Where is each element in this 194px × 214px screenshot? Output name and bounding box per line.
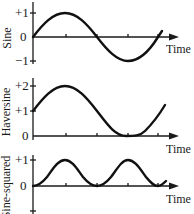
haversine-ytick-label-bottom: 0 (22, 128, 29, 143)
haversine-curve (33, 86, 165, 136)
haversine-y-title: Haversine (0, 88, 13, 137)
haversine-x-arrow-icon (169, 133, 179, 140)
sine-squared-curve (33, 160, 166, 186)
haversine-ytick-label-top: +2 (15, 78, 29, 93)
sine-panel: +1 0 −1 Sine Time (0, 2, 191, 68)
sine-x-arrow-icon (169, 34, 179, 41)
sine-squared-x-title: Time (166, 192, 191, 206)
sine-squared-ytick-label-top: +1 (15, 152, 29, 167)
sine-ytick-label-bottom: −1 (15, 53, 29, 68)
haversine-panel: +2 +1 0 Haversine Time (0, 78, 191, 156)
sine-squared-panel: +1 0 Sine-squared Time (0, 152, 191, 214)
sine-squared-ytick-label-mid: 0 (20, 178, 27, 193)
haversine-x-title: Time (166, 142, 191, 156)
sine-ytick-label-mid: 0 (20, 29, 27, 44)
sine-ytick-label-top: +1 (15, 5, 29, 20)
sine-y-title: Sine (0, 27, 14, 48)
sine-squared-x-arrow-icon (169, 183, 179, 190)
sine-squared-y-title: Sine-squared (0, 156, 13, 214)
waveform-figure: +1 0 −1 Sine Time +2 +1 0 Haversine Time (0, 0, 194, 214)
sine-x-title: Time (166, 42, 191, 56)
haversine-ytick-label-mid: +1 (15, 103, 29, 118)
